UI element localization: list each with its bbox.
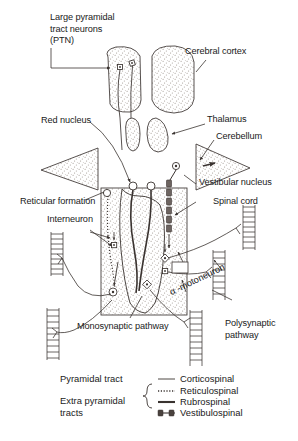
label-reticular-formation: Reticular formation: [20, 196, 95, 208]
motor-endplate-right-upper: [236, 224, 241, 234]
label-ptn: Large pyramidal tract neurons (PTN): [50, 12, 114, 47]
label-cerebellum: Cerebellum: [216, 131, 262, 143]
leader-vestibular-nucleus: [184, 175, 196, 184]
label-cerebral-cortex: Cerebral cortex: [185, 46, 246, 58]
vestibular-nucleus-node: [172, 162, 179, 169]
label-monosynaptic-pathway: Monosynaptic pathway: [77, 321, 168, 333]
muscle-left-upper: [51, 232, 63, 276]
reticular-formation-node: [103, 189, 110, 196]
legend-brace: [143, 384, 152, 408]
ptn-cell-body-1: [118, 65, 123, 70]
cerebral-cortex-left-hemisphere: [107, 47, 141, 112]
interneuron-right-lower: [163, 269, 168, 274]
label-spinal-cord: Spinal cord: [213, 196, 258, 208]
label-thalamus: Thalamus: [207, 114, 247, 126]
interneuron-left-lower: [109, 288, 117, 296]
thalamus-right-lobe: [147, 118, 168, 152]
label-polysynaptic-pathway: Polysynaptic pathway: [225, 318, 275, 341]
interneuron-left-upper: [112, 243, 117, 248]
label-red-nucleus: Red nucleus: [41, 115, 91, 127]
leader-polysynaptic: [212, 290, 232, 300]
thalamus-left-lobe: [126, 118, 140, 151]
motor-endplate-right-lower: [184, 318, 190, 328]
red-nucleus-node: [129, 182, 137, 190]
legend-entry-vestibulospinal: Vestibulospinal: [180, 407, 243, 419]
leader-thalamus: [172, 124, 205, 134]
motor-endplate-left-lower: [52, 328, 57, 338]
red-nucleus-node-2: [147, 182, 155, 190]
label-vestibular-nucleus: Vestibular nucleus: [199, 177, 272, 189]
motor-pathway-diagram: [0, 0, 298, 441]
legend-entry-corticospinal: Corticospinal: [180, 373, 234, 385]
legend-group-extrapyramidal: Extra pyramidal tracts: [60, 395, 125, 420]
vestibulospinal-entry: [170, 170, 176, 180]
leader-ptn: [51, 48, 110, 68]
muscle-left-lower: [47, 308, 59, 360]
ptn-cell-body-2: [129, 60, 136, 67]
reticular-formation-triangle: [41, 148, 98, 190]
leader-cerebral-cortex: [196, 60, 206, 72]
legend-sample-vestibulospinal: [158, 410, 175, 416]
muscle-right-lower: [190, 310, 202, 366]
sensory-receptor-box: [172, 262, 188, 273]
figure-canvas: Large pyramidal tract neurons (PTN) Cere…: [0, 0, 298, 441]
label-interneuron: Interneuron: [47, 214, 93, 226]
legend-group-pyramidal: Pyramidal tract: [60, 373, 123, 385]
muscle-right-upper: [243, 205, 255, 250]
